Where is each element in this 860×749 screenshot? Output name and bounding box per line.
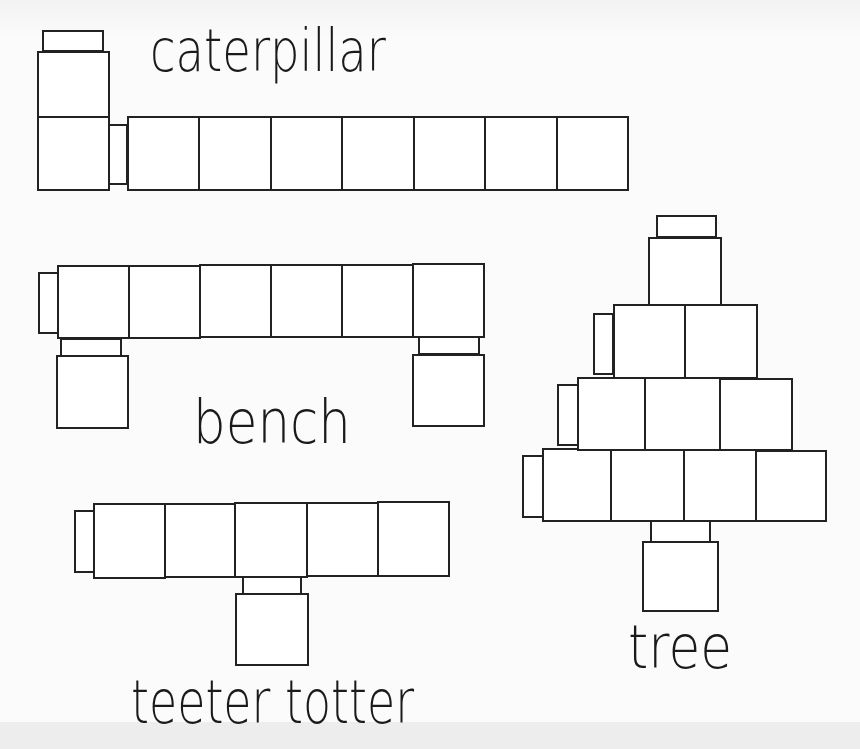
tree-top-cap	[656, 215, 717, 238]
caterpillar-head-cap	[42, 30, 104, 52]
bench-left-leg-connector	[60, 338, 122, 357]
teeter-totter-label: teeter totter	[131, 672, 501, 732]
tree-label: tree	[628, 617, 749, 677]
bench-label: bench	[193, 392, 377, 452]
tree-row4-cube	[755, 450, 827, 522]
bench-seat-cube	[57, 265, 130, 339]
caterpillar-connector	[108, 124, 128, 185]
teeter-totter-label-text: teeter totter	[131, 672, 414, 732]
tree-row3-cap	[557, 384, 579, 446]
tree-row3-cube	[644, 377, 721, 451]
teeter-totter-board-cube	[306, 502, 379, 577]
bench-seat-cube	[341, 264, 414, 338]
teeter-totter-board-cube	[93, 503, 166, 579]
caterpillar-label-text: caterpillar	[150, 22, 386, 80]
tree-trunk-connector	[650, 520, 711, 543]
caterpillar-head-cube	[37, 51, 110, 118]
tree-row4-cube	[610, 449, 685, 522]
tree-row2-cube	[684, 304, 758, 379]
teeter-totter-end-cap	[74, 510, 95, 573]
bench-right-leg	[412, 354, 485, 427]
teeter-totter-pivot-connector	[242, 576, 302, 595]
bench-end-cap	[38, 272, 59, 334]
caterpillar-body-cube	[556, 116, 629, 191]
tree-trunk-cube	[642, 541, 719, 612]
tree-row4-cube	[683, 449, 757, 522]
caterpillar-body-cube	[413, 116, 486, 191]
tree-row2-cap	[593, 313, 614, 375]
tree-label-text: tree	[628, 617, 732, 677]
teeter-totter-board-cube	[234, 502, 308, 578]
caterpillar-body-cube	[198, 116, 272, 191]
tree-row3-cube	[577, 377, 646, 451]
caterpillar-body-cube	[37, 116, 110, 191]
tree-row3-cube	[719, 378, 793, 451]
bench-label-text: bench	[193, 392, 351, 452]
tree-row4-cap	[522, 455, 544, 518]
caterpillar-body-cube	[341, 116, 415, 191]
tree-row2-cube	[613, 304, 686, 379]
bench-right-leg-connector	[418, 336, 480, 355]
bench-seat-cube	[199, 264, 272, 338]
caterpillar-body-cube	[270, 116, 343, 191]
bench-left-leg	[56, 355, 129, 429]
bench-seat-cube	[270, 264, 343, 338]
caterpillar-body-cube	[127, 116, 200, 191]
teeter-totter-pivot-cube	[235, 593, 309, 666]
cube-shapes-worksheet: caterpillar bench teeter totter tree	[0, 0, 860, 749]
bench-seat-cube	[412, 263, 485, 338]
bench-seat-cube	[128, 265, 201, 339]
teeter-totter-board-cube	[377, 501, 450, 577]
caterpillar-label: caterpillar	[150, 22, 444, 80]
teeter-totter-board-cube	[164, 503, 236, 578]
tree-top-cube	[648, 237, 722, 306]
tree-row4-cube	[542, 448, 612, 522]
caterpillar-body-cube	[484, 116, 558, 191]
